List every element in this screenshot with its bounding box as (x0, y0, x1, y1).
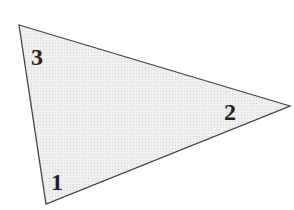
vertex-label-1: 1 (51, 169, 63, 195)
vertex-label-2: 2 (224, 99, 236, 125)
vertex-label-3: 3 (31, 44, 43, 70)
triangle-diagram: 3 2 1 (0, 0, 294, 210)
